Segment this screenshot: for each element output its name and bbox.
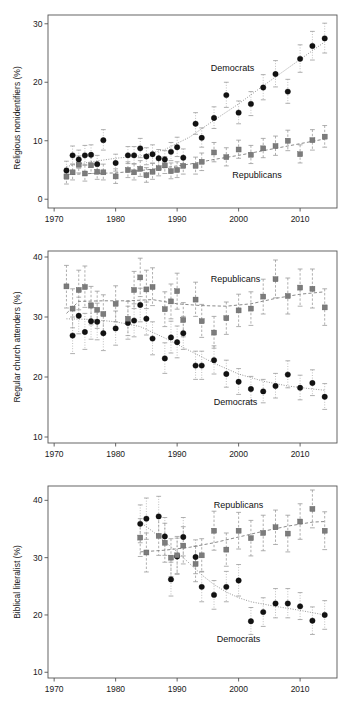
x-tick-label: 1990 <box>168 214 187 224</box>
y-axis-label: Religious nonidentifiers (%) <box>12 66 22 170</box>
data-point-democrats <box>138 302 143 307</box>
data-point-democrats <box>76 313 81 318</box>
y-tick-label: 10 <box>33 432 43 442</box>
data-point-republicans <box>125 167 130 172</box>
data-point-republicans <box>144 173 149 178</box>
chart-panel-2: Biblical literalist (%)10203040197019801… <box>0 472 349 712</box>
chart-panel-1: Regular church attenders (%)102030401970… <box>0 237 349 472</box>
data-point-democrats <box>113 326 118 331</box>
data-point-republicans <box>236 147 241 152</box>
data-point-republicans <box>199 159 204 164</box>
data-point-democrats <box>168 577 173 582</box>
data-point-democrats <box>322 612 327 617</box>
data-point-republicans <box>273 144 278 149</box>
data-point-democrats <box>285 601 290 606</box>
data-point-republicans <box>150 169 155 174</box>
data-point-democrats <box>181 534 186 539</box>
x-tick-label: 2000 <box>229 449 248 459</box>
data-point-republicans <box>248 152 253 157</box>
y-tick-label: 40 <box>33 495 43 505</box>
data-point-democrats <box>273 383 278 388</box>
data-point-democrats <box>193 554 198 559</box>
data-point-republicans <box>199 553 204 558</box>
data-point-republicans <box>310 286 315 291</box>
series-annotation: Democrats <box>217 634 261 644</box>
y-tick-label: 20 <box>33 372 43 382</box>
x-tick-label: 1970 <box>45 449 64 459</box>
data-point-democrats <box>236 110 241 115</box>
data-point-democrats <box>285 89 290 94</box>
data-point-democrats <box>261 85 266 90</box>
data-point-democrats <box>94 161 99 166</box>
data-point-democrats <box>199 584 204 589</box>
data-point-democrats <box>199 135 204 140</box>
data-point-republicans <box>95 307 100 312</box>
data-point-republicans <box>261 530 266 535</box>
panel-religious-nonidentifiers: Religious nonidentifiers (%)010203019701… <box>0 0 349 237</box>
y-tick-label: 10 <box>33 136 43 146</box>
x-tick-label: 1970 <box>45 684 64 694</box>
data-point-democrats <box>261 609 266 614</box>
data-point-republicans <box>181 543 186 548</box>
data-point-democrats <box>88 152 93 157</box>
data-point-democrats <box>156 514 161 519</box>
data-point-republicans <box>310 138 315 143</box>
data-point-democrats <box>248 619 253 624</box>
data-point-democrats <box>211 592 216 597</box>
data-point-democrats <box>248 101 253 106</box>
y-tick-label: 20 <box>33 610 43 620</box>
x-tick-label: 1980 <box>106 449 125 459</box>
plot-frame <box>48 251 337 443</box>
data-point-democrats <box>82 153 87 158</box>
data-point-republicans <box>261 294 266 299</box>
series-annotation: Republicans <box>232 170 282 180</box>
data-point-democrats <box>156 156 161 161</box>
data-point-democrats <box>162 157 167 162</box>
data-point-democrats <box>224 584 229 589</box>
data-point-democrats <box>113 160 118 165</box>
data-point-republicans <box>150 285 155 290</box>
data-point-republicans <box>156 533 161 538</box>
plot-frame <box>48 486 337 678</box>
data-point-democrats <box>211 358 216 363</box>
data-point-republicans <box>168 299 173 304</box>
x-tick-label: 2000 <box>229 214 248 224</box>
data-point-democrats <box>310 618 315 623</box>
data-point-republicans <box>144 550 149 555</box>
trend-line-democrats <box>140 522 324 615</box>
x-tick-label: 1990 <box>168 449 187 459</box>
data-point-democrats <box>168 149 173 154</box>
data-point-republicans <box>168 555 173 560</box>
x-tick-label: 2010 <box>291 449 310 459</box>
y-tick-label: 10 <box>33 667 43 677</box>
data-point-democrats <box>88 319 93 324</box>
x-tick-label: 2010 <box>291 214 310 224</box>
data-point-democrats <box>101 331 106 336</box>
data-point-republicans <box>298 152 303 157</box>
data-point-republicans <box>138 166 143 171</box>
data-point-republicans <box>236 308 241 313</box>
data-point-democrats <box>199 363 204 368</box>
y-tick-label: 30 <box>33 312 43 322</box>
series-annotation: Republicans <box>211 274 261 284</box>
series-annotation: Republicans <box>214 500 264 510</box>
data-point-republicans <box>70 170 75 175</box>
data-point-democrats <box>162 356 167 361</box>
data-point-republicans <box>224 316 229 321</box>
y-tick-label: 30 <box>33 553 43 563</box>
data-point-republicans <box>101 312 106 317</box>
data-point-democrats <box>248 386 253 391</box>
data-point-republicans <box>162 307 167 312</box>
data-point-democrats <box>224 371 229 376</box>
data-point-democrats <box>236 578 241 583</box>
data-point-democrats <box>162 534 167 539</box>
data-point-republicans <box>132 170 137 175</box>
data-point-republicans <box>162 163 167 168</box>
panel-regular-church-attenders: Regular church attenders (%)102030401970… <box>0 237 349 472</box>
trend-line-democrats <box>66 42 324 167</box>
data-point-democrats <box>70 333 75 338</box>
series-annotation: Democrats <box>211 63 255 73</box>
data-point-democrats <box>174 340 179 345</box>
data-point-republicans <box>199 319 204 324</box>
data-point-republicans <box>144 287 149 292</box>
